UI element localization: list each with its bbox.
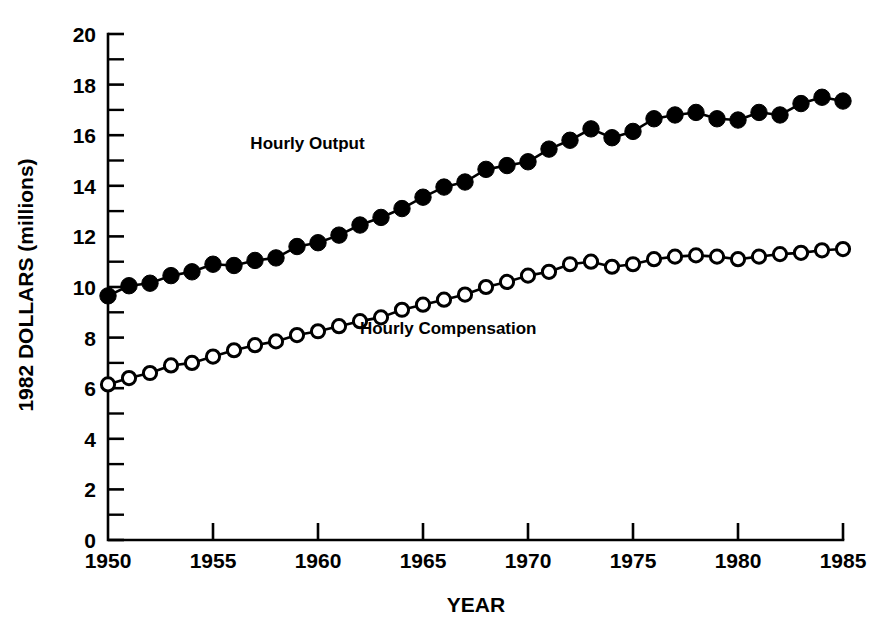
data-point-open (731, 253, 744, 266)
x-tick-label: 1970 (505, 549, 552, 572)
data-point-filled (373, 209, 389, 225)
data-point-filled (436, 179, 452, 195)
axis-spines (108, 34, 843, 540)
data-point-filled (751, 104, 767, 120)
y-axis-tick-labels: 02468101214161820 (73, 23, 97, 552)
data-point-open (122, 371, 135, 384)
series-label-2: Hourly Compensation (360, 319, 537, 338)
y-axis-title: 1982 DOLLARS (millions) (14, 158, 37, 411)
x-axis-title: YEAR (447, 593, 505, 616)
data-point-filled (121, 278, 137, 294)
data-point-open (689, 249, 702, 262)
data-point-filled (520, 154, 536, 170)
data-point-open (458, 288, 471, 301)
data-point-open (227, 344, 240, 357)
data-point-filled (730, 112, 746, 128)
data-point-filled (352, 217, 368, 233)
data-point-open (269, 335, 282, 348)
series-1 (100, 89, 851, 304)
y-tick-label: 16 (73, 124, 96, 147)
x-tick-label: 1975 (610, 549, 657, 572)
y-tick-label: 10 (73, 276, 96, 299)
data-point-filled (268, 250, 284, 266)
y-tick-label: 14 (73, 175, 97, 198)
data-point-filled (289, 238, 305, 254)
data-point-filled (247, 252, 263, 268)
data-point-filled (583, 121, 599, 137)
data-point-open (164, 359, 177, 372)
y-tick-label: 2 (84, 478, 96, 501)
data-point-open (626, 258, 639, 271)
data-point-open (311, 325, 324, 338)
x-tick-label: 1980 (715, 549, 762, 572)
data-point-filled (205, 256, 221, 272)
data-point-open (290, 328, 303, 341)
data-point-filled (163, 267, 179, 283)
data-point-filled (814, 89, 830, 105)
data-point-filled (646, 111, 662, 127)
data-point-open (605, 260, 618, 273)
x-tick-label: 1985 (820, 549, 867, 572)
data-point-filled (310, 235, 326, 251)
data-point-open (668, 250, 681, 263)
y-tick-label: 18 (73, 74, 97, 97)
data-point-open (710, 250, 723, 263)
series-label-1: Hourly Output (250, 134, 365, 153)
data-point-open (815, 244, 828, 257)
data-point-open (752, 250, 765, 263)
data-point-filled (499, 157, 515, 173)
data-point-filled (667, 107, 683, 123)
axes-group (108, 34, 843, 540)
data-point-open (563, 258, 576, 271)
data-point-filled (478, 161, 494, 177)
data-point-open (773, 248, 786, 261)
x-axis-ticks (213, 523, 843, 540)
y-tick-label: 6 (84, 377, 96, 400)
data-point-open (416, 298, 429, 311)
data-point-filled (625, 123, 641, 139)
data-point-open (437, 293, 450, 306)
data-point-filled (793, 95, 809, 111)
data-point-open (101, 378, 114, 391)
data-point-open (794, 246, 807, 259)
data-point-filled (331, 227, 347, 243)
chart-container: 02468101214161820 1950195519601965197019… (0, 0, 885, 642)
y-tick-label: 4 (84, 428, 96, 451)
x-axis-tick-labels: 19501955196019651970197519801985 (85, 549, 867, 572)
data-point-filled (772, 107, 788, 123)
y-tick-label: 12 (73, 225, 96, 248)
data-point-open (206, 350, 219, 363)
data-point-filled (394, 200, 410, 216)
data-point-filled (709, 111, 725, 127)
data-point-filled (184, 264, 200, 280)
x-tick-label: 1955 (190, 549, 237, 572)
data-point-open (332, 320, 345, 333)
data-point-open (185, 356, 198, 369)
data-point-filled (562, 132, 578, 148)
y-tick-label: 20 (73, 23, 96, 46)
data-point-filled (457, 174, 473, 190)
data-point-open (584, 255, 597, 268)
x-tick-label: 1960 (295, 549, 342, 572)
data-point-filled (541, 141, 557, 157)
data-point-filled (415, 189, 431, 205)
data-point-filled (142, 275, 158, 291)
data-point-open (479, 280, 492, 293)
data-series-group (100, 89, 851, 391)
x-tick-label: 1965 (400, 549, 447, 572)
data-point-filled (688, 104, 704, 120)
y-tick-label: 8 (84, 327, 96, 350)
data-point-open (395, 303, 408, 316)
data-point-open (542, 265, 555, 278)
data-point-filled (100, 288, 116, 304)
data-point-filled (604, 130, 620, 146)
data-point-open (143, 366, 156, 379)
data-point-open (647, 253, 660, 266)
x-tick-label: 1950 (85, 549, 132, 572)
data-point-open (521, 269, 534, 282)
data-point-open (248, 339, 261, 352)
data-point-filled (835, 93, 851, 109)
data-point-open (500, 275, 513, 288)
productivity-line-chart: 02468101214161820 1950195519601965197019… (0, 0, 885, 642)
series-annotations: Hourly OutputHourly Compensation (250, 134, 536, 338)
